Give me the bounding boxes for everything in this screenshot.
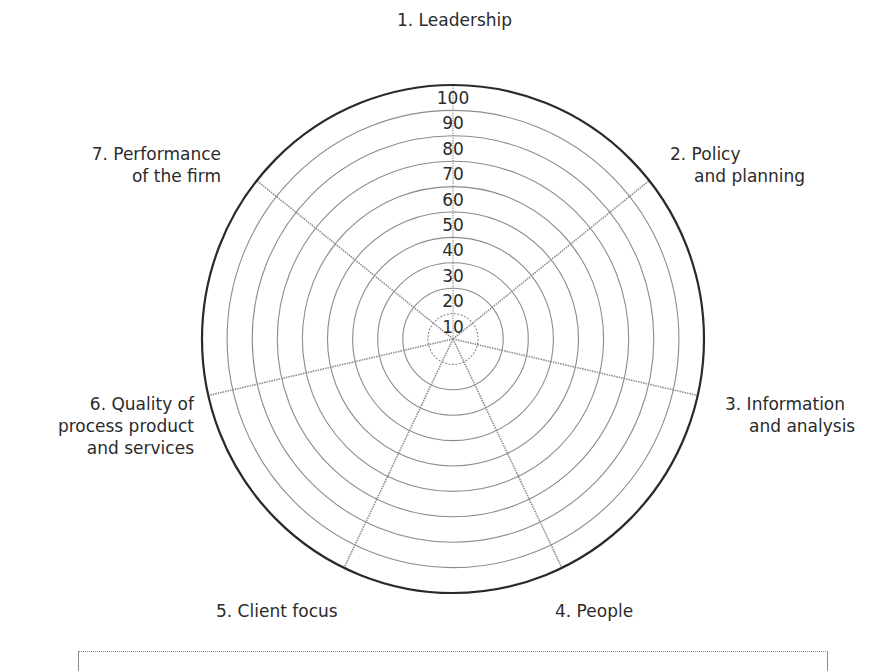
radial-tick-label-40: 40 (442, 240, 464, 260)
caption-box-border (78, 651, 828, 671)
axis-label-line: of the firm (92, 165, 221, 187)
axis-spoke-6 (208, 339, 453, 396)
axis-label-line: 5. Client focus (216, 600, 338, 622)
axis-label-line: 1. Leadership (397, 9, 512, 31)
axis-spoke-3 (453, 339, 698, 396)
axis-label-line: and planning (670, 165, 805, 187)
axis-label-line: and analysis (725, 415, 855, 437)
axis-label-line: process product (58, 415, 194, 437)
axis-label-line: and services (58, 437, 194, 459)
axis-label-line: 7. Performance (92, 143, 221, 165)
axis-label-people: 4. People (555, 600, 633, 622)
axis-label-policy-planning: 2. Policy and planning (670, 143, 805, 187)
axis-label-quality: 6. Quality of process product and servic… (58, 393, 194, 459)
axis-label-information-analysis: 3. Information and analysis (725, 393, 855, 437)
axis-label-line: 4. People (555, 600, 633, 622)
axis-label-leadership: 1. Leadership (397, 9, 512, 31)
radial-tick-label-60: 60 (442, 190, 464, 210)
axis-label-performance: 7. Performance of the firm (92, 143, 221, 187)
radial-tick-label-70: 70 (442, 164, 464, 184)
radial-tick-label-80: 80 (442, 139, 464, 159)
radial-tick-label-100: 100 (437, 88, 469, 108)
radial-tick-label-50: 50 (442, 215, 464, 235)
radial-tick-label-10: 10 (442, 317, 464, 337)
radial-tick-label-90: 90 (442, 113, 464, 133)
axis-label-line: 2. Policy (670, 143, 805, 165)
axis-label-client-focus: 5. Client focus (216, 600, 338, 622)
radial-tick-label-20: 20 (442, 291, 464, 311)
axis-label-line: 6. Quality of (58, 393, 194, 415)
axis-label-line: 3. Information (725, 393, 855, 415)
radial-tick-label-30: 30 (442, 266, 464, 286)
